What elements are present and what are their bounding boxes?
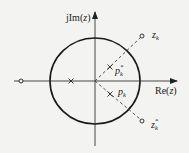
imaginary-axis-label: jIm(z) — [65, 12, 90, 24]
zero-marker-zk-conj — [140, 119, 144, 123]
zero-marker-zk — [140, 34, 144, 38]
label-zk: zk — [151, 29, 159, 41]
label-pk-conj: pk* — [114, 63, 124, 77]
pole-zero-diagram: jIm(z) Re(z) zk zk* pk* pk — [0, 0, 189, 153]
label-zk-conj: zk* — [150, 117, 159, 131]
real-axis-label: Re(z) — [155, 85, 177, 97]
zero-marker-real — [19, 79, 23, 83]
pole-marker-pk — [108, 92, 113, 97]
label-pk: pk — [117, 86, 126, 98]
pole-marker-pk-conj — [108, 65, 113, 70]
